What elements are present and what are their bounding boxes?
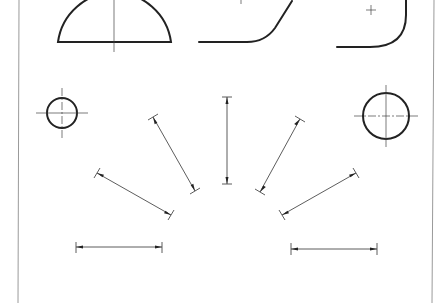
dim-diagonal-right-low [279, 168, 359, 220]
fillet-line-shape [199, 0, 292, 42]
large-circle-shape [354, 85, 418, 147]
semicircle-shape [58, 0, 180, 52]
dim-horizontal-right [291, 243, 377, 255]
dim-vertical-center [222, 97, 232, 184]
fillet-arc-shape [337, 0, 406, 47]
dim-diagonal-right-high [255, 116, 305, 195]
dim-diagonal-left-low [94, 168, 174, 220]
frame-right-border [432, 0, 434, 303]
small-circle-shape [36, 88, 88, 140]
technical-drawing-canvas [0, 0, 447, 303]
dim-diagonal-left-high [148, 114, 200, 194]
dim-horizontal-left [76, 242, 162, 253]
frame-left-border [18, 0, 19, 303]
